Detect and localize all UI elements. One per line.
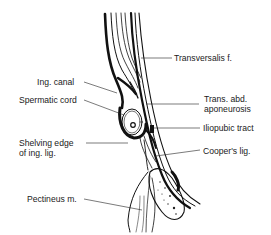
label-trans-abd-line2: aponeurosis bbox=[204, 104, 251, 114]
label-shelving-edge-line1: Shelving edge bbox=[19, 138, 73, 148]
label-shelving-edge-line2: of ing. lig. bbox=[19, 148, 56, 158]
label-iliopubic-tract: Iliopubic tract bbox=[203, 123, 254, 133]
label-trans-abd-line1: Trans. abd. bbox=[204, 94, 247, 104]
label-pectineus-muscle: Pectineus m. bbox=[27, 194, 77, 204]
label-coopers-ligament: Cooper's lig. bbox=[203, 146, 251, 156]
label-inguinal-canal: Ing. canal bbox=[37, 77, 74, 87]
label-spermatic-cord: Spermatic cord bbox=[19, 95, 77, 105]
inguinal-anatomy-diagram: Transversalis f. Ing. canal Spermatic co… bbox=[0, 0, 271, 235]
label-transversalis-fascia: Transversalis f. bbox=[174, 53, 232, 63]
